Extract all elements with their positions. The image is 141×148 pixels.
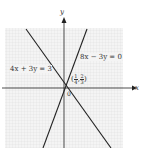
equation-label-1: 4x + 3y = 3	[10, 65, 52, 73]
y-axis-label: y	[60, 8, 64, 16]
intersection-label: (14,23)	[71, 74, 87, 85]
origin-label: 0	[67, 90, 71, 97]
y-axis-arrow-icon	[62, 17, 67, 23]
x-axis-label: x	[135, 84, 139, 92]
equation-label-2: 8x − 3y = 0	[80, 53, 122, 61]
